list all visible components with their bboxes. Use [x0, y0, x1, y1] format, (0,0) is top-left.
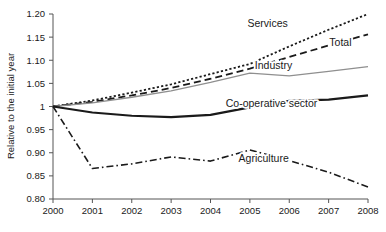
y-axis-title: Relative to the initial year: [5, 53, 16, 159]
series-labels-group: ServicesServicesTotalTotalIndustryIndust…: [226, 17, 352, 165]
y-axis-tick-labels: 1.201.151.101.0510.950.900.850.80: [27, 8, 46, 204]
x-tick-label: 2000: [42, 205, 63, 216]
series-label-total: Total: [329, 36, 351, 48]
series-label-co-operative-sector: Co-operative sector: [226, 97, 318, 109]
y-tick-label: 0.85: [27, 170, 46, 181]
y-tick-label: 1.10: [27, 55, 46, 66]
x-tick-label: 2003: [161, 205, 182, 216]
series-label-services: Services: [247, 17, 287, 29]
x-tick-label: 2006: [279, 205, 300, 216]
chart-container: 1.201.151.101.0510.950.900.850.80 200020…: [0, 0, 386, 232]
y-tick-label: 0.80: [27, 193, 46, 204]
x-tick-label: 2002: [121, 205, 142, 216]
series-line-services: [53, 14, 368, 107]
y-tick-label: 1.05: [27, 78, 46, 89]
x-axis-tick-labels: 200020012002200320042005200620072008: [42, 205, 378, 216]
series-line-co-operative-sector: [53, 95, 368, 117]
y-tick-label: 0.90: [27, 147, 46, 158]
axis-lines: [49, 14, 368, 203]
x-tick-label: 2005: [239, 205, 260, 216]
x-tick-label: 2008: [357, 205, 378, 216]
series-line-agriculture: [53, 107, 368, 187]
data-series-group: [53, 14, 368, 187]
x-tick-label: 2001: [82, 205, 103, 216]
y-tick-label: 1.15: [27, 32, 46, 43]
series-line-total: [53, 34, 368, 106]
series-label-agriculture: Agriculture: [239, 152, 289, 164]
x-tick-label: 2004: [200, 205, 221, 216]
y-tick-label: 1.20: [27, 8, 46, 19]
series-label-industry: Industry: [255, 59, 293, 71]
x-tick-label: 2007: [318, 205, 339, 216]
y-tick-label: 0.95: [27, 124, 46, 135]
y-tick-label: 1: [40, 101, 45, 112]
line-chart: 1.201.151.101.0510.950.900.850.80 200020…: [0, 0, 386, 232]
